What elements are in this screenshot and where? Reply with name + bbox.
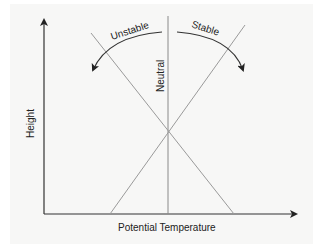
unstable-arrow: [93, 32, 162, 70]
stable-arrow: [177, 32, 243, 70]
x-axis-label: Potential Temperature: [118, 222, 216, 233]
y-axis-label: Height: [25, 109, 36, 138]
neutral-label: Neutral: [155, 60, 166, 92]
stability-diagram: Unstable Stable Neutral Height Potential…: [0, 0, 327, 250]
stable-line: [110, 25, 245, 214]
